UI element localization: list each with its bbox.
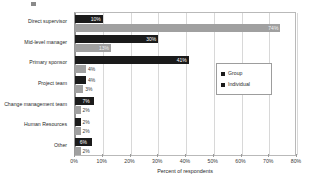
bar-value-label-group: 7%	[82, 97, 89, 105]
bar-value-label-individual: 2%	[83, 147, 90, 155]
x-tick-mark	[241, 154, 242, 157]
y-axis-category-label: Human Resources	[24, 121, 67, 128]
x-tick-label: 20%	[124, 157, 134, 165]
bar-value-label-individual: 74%	[268, 24, 278, 32]
x-tick-label: 70%	[263, 157, 273, 165]
x-tick-mark	[102, 154, 103, 157]
x-axis-title: Percent of respondents	[74, 168, 296, 174]
y-axis-category-label: Mid-level manager	[24, 39, 67, 46]
x-tick-mark	[185, 154, 186, 157]
bar-value-label-group: 41%	[177, 56, 187, 64]
bar-row: 7%2%	[75, 95, 295, 116]
bar-value-label-group: 2%	[83, 118, 90, 126]
legend-label-group: Group	[228, 70, 242, 77]
x-tick-label: 10%	[97, 157, 107, 165]
bar-individual	[75, 24, 280, 32]
bar-value-label-individual: 3%	[85, 85, 92, 93]
bar-group	[75, 118, 81, 126]
y-axis-category-label: Change management team	[4, 101, 67, 108]
x-tick-mark	[157, 154, 158, 157]
bar-chart: Direct supervisorMid-level managerPrimar…	[0, 0, 316, 182]
y-axis-category-label: Primary sponsor	[29, 59, 67, 66]
x-axis-ticks: 0%10%20%30%40%50%60%70%80%	[74, 157, 296, 167]
y-axis-category-label: Project team	[38, 80, 67, 87]
y-axis-category-label: Other	[54, 142, 67, 149]
legend-item-individual: Individual	[221, 79, 267, 90]
bar-value-label-individual: 2%	[83, 106, 90, 114]
x-tick-mark	[74, 154, 75, 157]
bar-individual	[75, 127, 81, 135]
bar-individual	[75, 106, 81, 114]
bar-value-label-group: 6%	[80, 138, 87, 146]
bar-row: 2%2%	[75, 116, 295, 137]
x-tick-label: 0%	[70, 157, 78, 165]
bar-value-label-individual: 13%	[99, 44, 109, 52]
y-axis-category-labels: Direct supervisorMid-level managerPrimar…	[0, 12, 71, 156]
x-tick-mark	[213, 154, 214, 157]
bar-individual	[75, 65, 86, 73]
legend-item-group: Group	[221, 68, 267, 79]
legend-swatch-group-icon	[221, 72, 225, 76]
corner-artifact-mark	[31, 2, 36, 6]
y-axis-category-label: Direct supervisor	[28, 18, 67, 25]
bar-row: 10%74%	[75, 13, 295, 34]
x-tick-mark	[130, 154, 131, 157]
bar-individual	[75, 85, 83, 93]
legend: Group Individual	[216, 63, 272, 95]
bar-value-label-group: 4%	[88, 76, 95, 84]
bar-value-label-group: 30%	[146, 35, 156, 43]
x-tick-label: 80%	[291, 157, 301, 165]
bar-value-label-individual: 2%	[83, 127, 90, 135]
gridline-80	[297, 13, 298, 155]
x-tick-label: 30%	[152, 157, 162, 165]
bar-row: 30%13%	[75, 34, 295, 55]
x-tick-label: 60%	[235, 157, 245, 165]
bar-group	[75, 56, 189, 64]
bar-value-label-group: 10%	[91, 15, 101, 23]
bar-individual	[75, 147, 81, 155]
bar-value-label-individual: 4%	[88, 65, 95, 73]
legend-label-individual: Individual	[228, 81, 250, 88]
x-tick-mark	[268, 154, 269, 157]
x-tick-label: 40%	[180, 157, 190, 165]
x-tick-mark	[296, 154, 297, 157]
bar-group	[75, 76, 86, 84]
x-tick-label: 50%	[208, 157, 218, 165]
legend-swatch-individual-icon	[221, 83, 225, 87]
